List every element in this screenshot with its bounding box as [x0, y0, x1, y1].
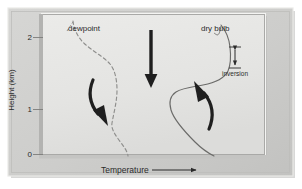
diagram-canvas: [0, 0, 302, 189]
inversion-label: inversion: [222, 71, 248, 78]
x-axis-spine: [39, 155, 267, 159]
dewpoint-label: dewpoint: [68, 25, 100, 33]
inversion-diagram-figure: dewpoint dry bulb inversion Temperature …: [0, 0, 302, 189]
y-tick-label-0: 0: [20, 150, 32, 159]
drybulb-label: dry bulb: [201, 25, 229, 33]
x-axis-label: Temperature: [101, 166, 149, 175]
y-tick-label-2: 2: [20, 33, 32, 42]
y-tick-label-1: 1: [20, 105, 32, 114]
y-axis-spine: [39, 14, 43, 155]
y-axis-label: Height (km): [8, 60, 16, 120]
plot-area: [42, 14, 265, 155]
